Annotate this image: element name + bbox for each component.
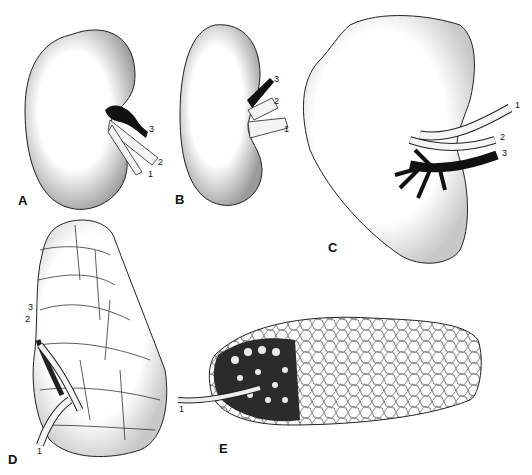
kidney-a <box>25 30 158 209</box>
panel-label-c: C <box>328 240 337 255</box>
kidney-figure <box>0 0 532 475</box>
vessel-label-d-1: 1 <box>37 446 42 456</box>
vessel-label-c-2: 2 <box>500 132 505 142</box>
vessel-label-b-1: 1 <box>284 124 289 134</box>
kidney-d <box>33 220 167 457</box>
vessel-label-d-3: 3 <box>28 302 33 312</box>
vessel-label-c-3: 3 <box>502 148 507 158</box>
panel-label-d: D <box>8 452 17 467</box>
vessel-label-c-1: 1 <box>515 100 520 110</box>
vessel-label-e-1: 1 <box>179 404 184 414</box>
vessel-label-a-3: 3 <box>149 124 154 134</box>
vessel-label-a-2: 2 <box>158 157 163 167</box>
vessel-label-b-3: 3 <box>274 74 279 84</box>
panel-label-a: A <box>18 193 27 208</box>
panel-label-e: E <box>219 441 228 456</box>
kidney-c <box>303 16 510 264</box>
kidney-b <box>180 25 288 206</box>
kidney-e <box>178 317 481 425</box>
vessel-label-d-2: 2 <box>25 314 30 324</box>
vessel-label-a-1: 1 <box>148 169 153 179</box>
vessel-label-b-2: 2 <box>274 96 279 106</box>
panel-label-b: B <box>175 192 184 207</box>
